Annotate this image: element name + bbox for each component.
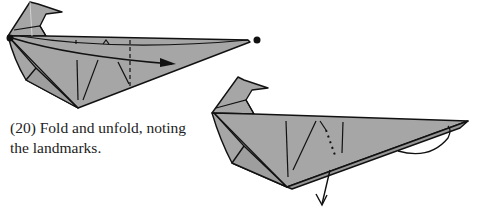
caption-line-2: the landmarks.: [10, 138, 220, 158]
figure-after-body: [212, 77, 468, 189]
diagram-stage: (20) Fold and unfold, noting the landmar…: [0, 0, 480, 214]
arrow-head-down: [316, 194, 327, 205]
origami-figure-after: [0, 0, 480, 214]
caption-line-1: (20) Fold and unfold, noting: [10, 118, 220, 138]
step-caption: (20) Fold and unfold, noting the landmar…: [10, 118, 220, 158]
